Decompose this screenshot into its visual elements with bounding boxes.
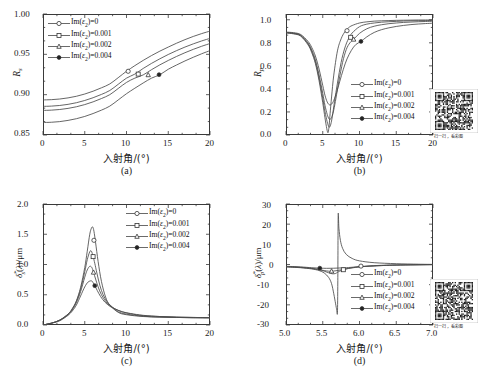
legend-marker-triangle-icon xyxy=(126,231,148,242)
legend-marker-square-icon xyxy=(351,91,373,102)
panel-c-id: (c) xyxy=(43,355,210,366)
panel-d-legend: Im(ε2)=0Im(ε2)=0.001Im(ε2)=0.002Im(ε2)=0… xyxy=(351,269,415,315)
legend-marker-filled-circle-icon xyxy=(351,303,373,314)
legend-marker-square-icon xyxy=(126,220,148,231)
panel-a: Rs 1.00 0.95 0.90 0.85 0 5 10 15 20 入射角/… xyxy=(0,0,244,190)
panel-c-ytick-3: 0.5 xyxy=(17,289,28,299)
qr-code-b xyxy=(430,89,478,133)
qr-code-b-image xyxy=(430,89,478,133)
panel-c-ytick-0: 2.0 xyxy=(17,199,28,209)
legend-marker-circle-icon xyxy=(126,208,148,219)
panel-b-ytick-5: 0.0 xyxy=(260,129,271,139)
panel-d-xtick-4: 7.0 xyxy=(426,328,437,338)
panel-a-ylabel: Rs xyxy=(12,52,25,92)
panel-a-xtick-0: 0 xyxy=(40,138,45,148)
panel-a-ytick-1: 0.95 xyxy=(14,48,30,58)
panel-c-xtick-4: 20 xyxy=(205,328,214,338)
panel-c-xtick-1: 5 xyxy=(82,328,87,338)
panel-b-ytick-4: 0.2 xyxy=(260,107,271,117)
panel-d-ytick-3: 0 xyxy=(269,260,274,270)
panel-a-ytick-2: 0.90 xyxy=(14,88,30,98)
legend-marker-filled-circle-icon xyxy=(351,113,373,124)
panel-d-ytick-5: -20 xyxy=(257,300,269,310)
panel-a-xtick-4: 20 xyxy=(205,138,214,148)
panel-d: δ*p(λ)/μm 30 20 10 0 -10 -20 -30 5.0 5.5… xyxy=(243,190,487,380)
panel-d-ytick-4: -10 xyxy=(257,280,269,290)
legend-marker-filled-circle-icon xyxy=(48,52,70,63)
panel-b-ytick-1: 0.8 xyxy=(260,38,271,48)
panel-c: δ*s(λ)/μm 2.0 1.5 1.0 0.5 0.0 0 5 10 15 … xyxy=(0,190,244,380)
legend-label: Im(ε2)=0.004 xyxy=(373,301,415,316)
panel-a-ytick-3: 0.85 xyxy=(14,128,30,138)
panel-b: Rp 1.0 0.8 0.6 0.4 0.2 0.0 0 5 10 15 20 … xyxy=(243,0,487,190)
panel-b-xtick-3: 15 xyxy=(391,138,400,148)
legend-label: Im(ε2)=0.004 xyxy=(148,240,190,255)
panel-a-xlabel: 入射角/(°) xyxy=(43,150,210,165)
panel-c-xlabel: 入射角/(°) xyxy=(43,340,210,355)
panel-b-xtick-0: 0 xyxy=(283,138,288,148)
panel-b-xlabel: 入射角/(°) xyxy=(286,150,433,165)
legend-item: Im(ε2)=0.004 xyxy=(126,242,190,253)
panel-c-ytick-4: 0.0 xyxy=(17,319,28,329)
legend-marker-filled-circle-icon xyxy=(126,242,148,253)
panel-b-xtick-1: 5 xyxy=(320,138,325,148)
panel-a-legend: Im(ε2)=0Im(ε2)=0.001Im(ε2)=0.002Im(ε2)=0… xyxy=(48,18,112,64)
panel-d-id: (d) xyxy=(286,355,433,366)
legend-marker-circle-icon xyxy=(351,79,373,90)
panel-c-xtick-0: 0 xyxy=(40,328,45,338)
panel-b-ytick-0: 1.0 xyxy=(260,15,271,25)
panel-d-ytick-2: 10 xyxy=(262,240,271,250)
legend-marker-triangle-icon xyxy=(351,102,373,113)
panel-d-ytick-1: 20 xyxy=(262,220,271,230)
legend-label: Im(ε2)=0.004 xyxy=(373,111,415,126)
legend-marker-triangle-icon xyxy=(351,292,373,303)
qr-code-d xyxy=(430,279,478,323)
panel-b-xtick-4: 20 xyxy=(428,138,437,148)
panel-d-xtick-2: 6.0 xyxy=(353,328,364,338)
legend-marker-circle-icon xyxy=(351,269,373,280)
legend-item: Im(ε2)=0.004 xyxy=(48,52,112,63)
panel-d-xtick-3: 6.5 xyxy=(389,328,400,338)
panel-c-legend: Im(ε2)=0Im(ε2)=0.001Im(ε2)=0.002Im(ε2)=0… xyxy=(126,208,190,254)
qr-code-d-image xyxy=(430,279,478,323)
legend-item: Im(ε2)=0.004 xyxy=(351,113,415,124)
qr-caption-b: 扫一扫，看彩图 xyxy=(434,133,463,139)
legend-marker-circle-icon xyxy=(48,18,70,29)
panel-a-id: (a) xyxy=(43,165,210,176)
panel-d-xtick-1: 5.5 xyxy=(316,328,327,338)
panel-c-ytick-2: 1.0 xyxy=(17,259,28,269)
panel-b-id: (b) xyxy=(286,165,433,176)
panel-a-xtick-3: 15 xyxy=(163,138,172,148)
panel-c-ytick-1: 1.5 xyxy=(17,229,28,239)
panel-d-ytick-0: 30 xyxy=(262,200,271,210)
panel-c-xtick-3: 15 xyxy=(163,328,172,338)
panel-a-ytick-0: 1.00 xyxy=(14,9,30,19)
legend-label: Im(ε2)=0.004 xyxy=(70,50,112,65)
panel-b-xtick-2: 10 xyxy=(354,138,363,148)
panel-c-xtick-2: 10 xyxy=(121,328,130,338)
qr-caption-d: 扫一扫，看彩图 xyxy=(434,323,463,329)
legend-marker-square-icon xyxy=(351,281,373,292)
panel-b-ytick-2: 0.6 xyxy=(260,61,271,71)
panel-d-xtick-0: 5.0 xyxy=(279,328,290,338)
legend-marker-triangle-icon xyxy=(48,41,70,52)
legend-item: Im(ε2)=0.004 xyxy=(351,303,415,314)
legend-marker-square-icon xyxy=(48,30,70,41)
panel-a-xtick-2: 10 xyxy=(121,138,130,148)
panel-b-legend: Im(ε2)=0Im(ε2)=0.001Im(ε2)=0.002Im(ε2)=0… xyxy=(351,79,415,125)
panel-d-ytick-6: -30 xyxy=(257,319,269,329)
panel-a-xtick-1: 5 xyxy=(82,138,87,148)
panel-d-xlabel: 入射角/(°) xyxy=(286,340,433,355)
panel-b-ytick-3: 0.4 xyxy=(260,84,271,94)
